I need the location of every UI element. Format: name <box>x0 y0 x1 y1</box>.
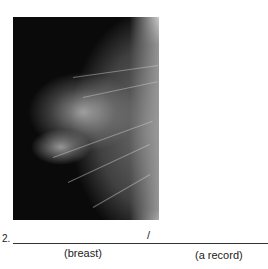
item-number: 2. <box>2 233 10 244</box>
answer-blank-line[interactable] <box>13 243 268 244</box>
label-a-record: (a record) <box>195 249 243 261</box>
mammogram-image <box>13 17 159 220</box>
separator-slash: / <box>147 229 150 241</box>
breast-tissue-shading <box>13 17 159 220</box>
label-breast: (breast) <box>64 247 102 259</box>
